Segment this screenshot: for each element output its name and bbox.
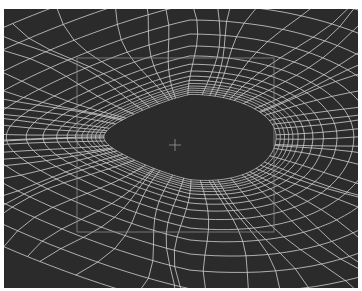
eye-mesh-wireframe	[4, 9, 358, 288]
wireframe-viewport[interactable]	[4, 9, 358, 288]
